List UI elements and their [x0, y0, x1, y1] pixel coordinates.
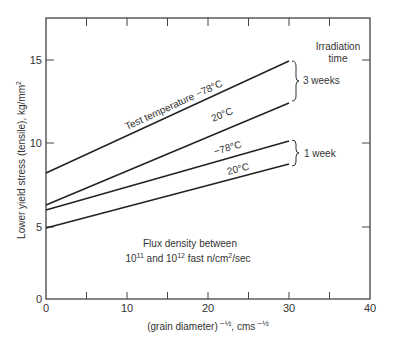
x-axis-label: (grain diameter) −½, cms −½	[147, 319, 269, 332]
chart: 0 10 20 30 40 0 5 10 15 Test temperature…	[0, 0, 394, 344]
flux-line1: Flux density between	[143, 238, 237, 249]
group-3weeks: 3 weeks	[303, 75, 340, 86]
label-line3: −78°C	[213, 139, 243, 157]
flux-line2: 1011 and 1012 fast n/cm2/sec	[125, 252, 250, 264]
data-lines	[46, 61, 289, 228]
braces	[292, 61, 299, 166]
svg-text:10: 10	[121, 302, 133, 314]
group-1week: 1 week	[304, 148, 337, 159]
svg-text:0: 0	[36, 293, 42, 305]
label-line2: 20°C	[210, 105, 235, 124]
svg-text:5: 5	[36, 221, 42, 233]
svg-text:15: 15	[30, 54, 42, 66]
label-line1: Test temperature −78°C	[123, 78, 224, 132]
svg-text:20: 20	[202, 302, 214, 314]
svg-text:10: 10	[30, 137, 42, 149]
legend-title: Irradiation	[316, 41, 360, 52]
svg-text:30: 30	[283, 302, 295, 314]
y-axis-label: Lower yield stress (tensile), kg/mm2	[15, 81, 27, 239]
svg-text:40: 40	[364, 302, 376, 314]
legend-title-2: time	[329, 53, 348, 64]
svg-text:0: 0	[43, 302, 49, 314]
